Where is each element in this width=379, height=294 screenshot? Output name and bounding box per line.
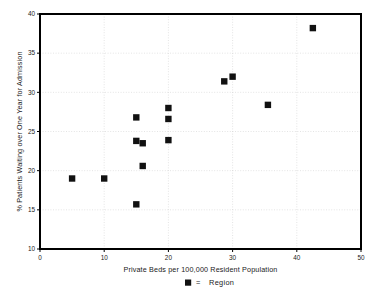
data-point-marker xyxy=(133,114,139,120)
x-tick-label: 40 xyxy=(293,254,301,261)
y-tick-label: 20 xyxy=(28,167,36,174)
data-point-marker xyxy=(229,73,235,79)
data-point-marker xyxy=(165,116,171,122)
data-point-marker xyxy=(140,163,146,169)
data-point-marker xyxy=(69,175,75,181)
x-tick-label: 20 xyxy=(165,254,173,261)
scatter-plot-figure: 01020304050 10152025303540 Private Beds … xyxy=(0,0,379,294)
x-tick-label: 50 xyxy=(357,254,365,261)
legend-marker-icon xyxy=(185,280,191,286)
y-tick-label: 30 xyxy=(28,89,36,96)
x-tick-label: 0 xyxy=(38,254,42,261)
y-axis-label: % Patients Waiting over One Year for Adm… xyxy=(15,51,24,211)
data-points-group xyxy=(69,25,316,208)
plot-frame xyxy=(40,14,361,249)
data-point-marker xyxy=(165,105,171,111)
x-axis-ticks-group: 01020304050 xyxy=(38,249,365,261)
data-point-marker xyxy=(310,25,316,31)
data-point-marker xyxy=(140,140,146,146)
data-point-marker xyxy=(101,175,107,181)
y-axis-ticks-group: 10152025303540 xyxy=(28,10,40,252)
legend-separator: = xyxy=(196,278,201,287)
y-tick-label: 10 xyxy=(28,245,36,252)
x-axis-label: Private Beds per 100,000 Resident Popula… xyxy=(123,265,277,274)
x-tick-label: 30 xyxy=(229,254,237,261)
data-point-marker xyxy=(133,201,139,207)
y-tick-label: 40 xyxy=(28,10,36,17)
data-point-marker xyxy=(265,102,271,108)
y-tick-label: 35 xyxy=(28,49,36,56)
data-point-marker xyxy=(165,137,171,143)
y-tick-label: 25 xyxy=(28,128,36,135)
x-tick-label: 10 xyxy=(101,254,109,261)
gridlines-group xyxy=(40,14,361,249)
data-point-marker xyxy=(133,138,139,144)
y-tick-label: 15 xyxy=(28,206,36,213)
legend-entry-label: Region xyxy=(209,278,234,287)
data-point-marker xyxy=(221,78,227,84)
legend: = Region xyxy=(185,278,234,287)
